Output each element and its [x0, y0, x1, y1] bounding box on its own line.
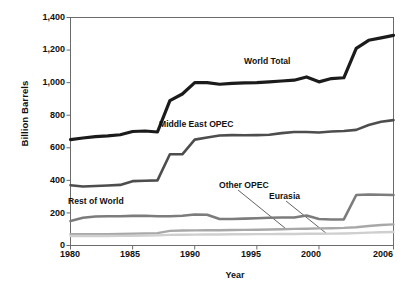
plot-area	[0, 0, 405, 288]
y-tick-marks	[67, 18, 71, 246]
x-tick-marks	[71, 246, 394, 250]
series-label-middle-east-opec: Middle East OPEC	[159, 120, 234, 129]
series-label-other-opec: Other OPEC	[219, 181, 269, 190]
series-label-eurasia: Eurasia	[269, 192, 300, 201]
series-label-world-total: World Total	[244, 57, 290, 66]
series-label-rest-of-world: Rest of World	[68, 197, 124, 206]
series-line-middle-east-opec	[71, 120, 394, 186]
line-chart: Billion Barrels Year 1,400 1,200 1,000 8…	[0, 0, 405, 288]
